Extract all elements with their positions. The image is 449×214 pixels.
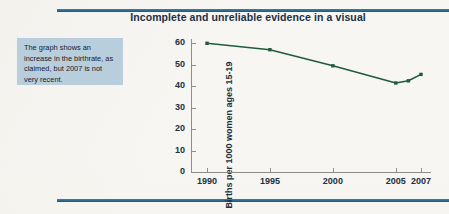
- data-point-2005: [394, 81, 397, 84]
- data-point-markers: [205, 42, 422, 85]
- data-point-2007: [419, 73, 422, 76]
- data-series-line: [0, 0, 449, 214]
- figure-page: Incomplete and unreliable evidence in a …: [0, 0, 449, 214]
- data-point-1990: [205, 42, 208, 45]
- data-point-2006: [407, 79, 410, 82]
- chart-plot-area: Births per 1000 women ages 15-19 0102030…: [0, 0, 449, 214]
- data-point-2000: [331, 64, 334, 67]
- data-point-1995: [268, 48, 271, 51]
